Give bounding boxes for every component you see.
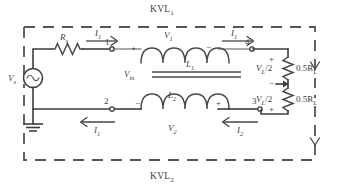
voltage-v2-minus-sign: − [135, 99, 140, 108]
voltage-v1-minus-sign: − [206, 43, 211, 52]
voltage-vl-upper-minus-sign: − [269, 79, 274, 88]
voltage-vl-upper-label: VL/2 [256, 64, 272, 75]
node-4-label: 4 [245, 38, 250, 47]
node-2-terminal [110, 107, 114, 111]
voltage-v2-label: V2 [168, 124, 177, 135]
kvl1-label: KVL1 [150, 4, 174, 16]
current-i1-top-left-label: I1 [95, 29, 101, 40]
inductor-l1-label: L1 [186, 60, 194, 71]
kvl2-label: KVL2 [150, 171, 174, 183]
resistor-rs-symbol [52, 44, 83, 55]
current-i1-bottom-left-label: I1 [94, 126, 100, 137]
current-i2-bottom-right-label: I2 [237, 126, 243, 137]
wire-load-to-node3 [261, 110, 288, 114]
resistor-load-upper-label: 0.5RL [296, 64, 317, 75]
circuit-diagram: KVL1 KVL2 Vs Rs V1 + − L1 Vin L2 − + V2 … [0, 0, 339, 190]
resistor-load-lower-label: 0.5RL [296, 95, 317, 106]
resistor-rs-label: Rs [60, 33, 68, 44]
voltage-v1-plus-sign: + [131, 44, 136, 53]
inductor-l2-label: L2 [168, 91, 176, 102]
voltage-vl-lower-plus-sign: + [269, 105, 274, 114]
resistor-load-upper-symbol [283, 57, 293, 80]
voltage-v2-plus-sign: + [216, 99, 221, 108]
node-1-label: 1 [105, 38, 110, 47]
voltage-v1-label: V1 [164, 31, 173, 42]
current-i1-top-right-label: I1 [231, 29, 237, 40]
resistor-load-lower-symbol [283, 88, 293, 111]
kvl2-direction-arrow-icon [311, 138, 320, 145]
source-top-wire [33, 49, 52, 68]
voltage-vl-upper-plus-sign: + [269, 55, 274, 64]
node-2-label: 2 [104, 97, 109, 106]
inductor-l1-symbol [141, 48, 229, 63]
voltage-vin-label: Vin [124, 70, 135, 81]
source-voltage-label: Vs [8, 74, 16, 85]
